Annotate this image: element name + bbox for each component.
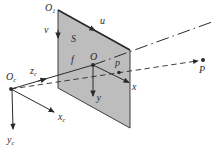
label-image-point: p <box>114 57 120 68</box>
label-camera-origin: Oc <box>6 71 16 83</box>
pinhole-camera-diagram: O1 u v S f O x y p P Oc zc xc yc <box>0 0 215 152</box>
image-plane <box>58 10 130 128</box>
label-scene-point: P <box>198 64 205 75</box>
image-point-dot <box>117 71 121 75</box>
label-xc-axis: xc <box>57 111 65 123</box>
label-principal-point: O <box>90 51 97 62</box>
xc-axis-line <box>11 89 54 112</box>
label-x-axis: x <box>131 81 137 92</box>
zc-axis-arrow <box>38 79 46 81</box>
label-y-axis: y <box>96 92 102 103</box>
label-plane-s: S <box>71 33 76 44</box>
camera-origin-dot <box>9 87 13 91</box>
yc-axis-line <box>12 90 13 129</box>
label-yc-axis: yc <box>6 134 14 146</box>
scene-point-dot <box>201 58 205 62</box>
label-zc-axis: zc <box>29 65 37 77</box>
label-image-origin: O1 <box>45 2 55 14</box>
label-v-axis: v <box>44 24 49 35</box>
label-u-axis: u <box>100 15 105 26</box>
principal-point-dot <box>91 63 95 67</box>
